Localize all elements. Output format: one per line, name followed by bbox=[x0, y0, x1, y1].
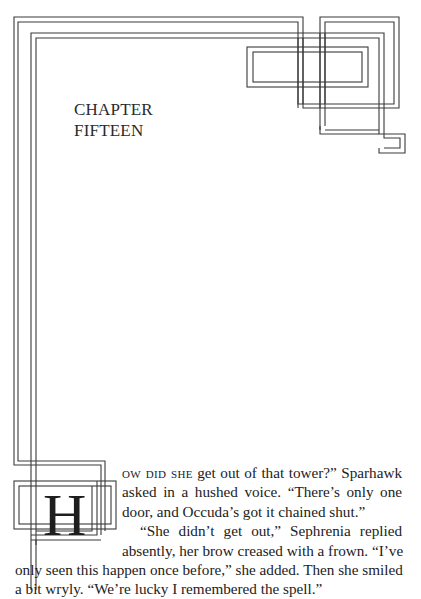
chapter-heading-line1: CHAPTER bbox=[74, 99, 153, 120]
lead-small-caps: ow did she bbox=[122, 464, 193, 481]
body-paragraph-indented: ow did she get out of that tower?” Sparh… bbox=[122, 463, 402, 560]
body-line-7: a bit wryly. “We’re lucky I remembered t… bbox=[15, 579, 402, 598]
body-line-5: absently, her brow creased with a frown.… bbox=[122, 541, 402, 560]
body-line-4: “She didn’t get out,” Sephrenia replied bbox=[122, 521, 402, 540]
chapter-heading: CHAPTER FIFTEEN bbox=[74, 99, 153, 141]
body-line-6: only seen this happen once before,” she … bbox=[15, 560, 402, 579]
body-paragraph-full: only seen this happen once before,” she … bbox=[15, 560, 402, 599]
body-line-1: ow did she get out of that tower?” Sparh… bbox=[122, 463, 402, 482]
chapter-heading-line2: FIFTEEN bbox=[74, 120, 153, 141]
body-line-3: door, and Occuda’s got it chained shut.” bbox=[122, 502, 402, 521]
body-line-2: asked in a hushed voice. “There’s only o… bbox=[122, 482, 402, 501]
drop-cap-letter: H bbox=[43, 485, 86, 545]
